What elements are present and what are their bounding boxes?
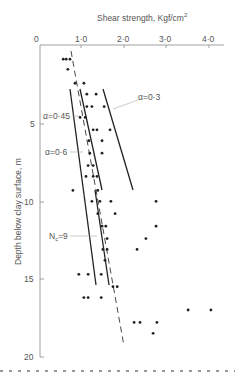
data-point (85, 105, 88, 108)
x-tick-4: 4·0 (202, 34, 215, 44)
data-point (87, 296, 90, 299)
label-alpha-045: α=0·45 (43, 111, 70, 121)
data-point (65, 58, 68, 61)
data-point (152, 332, 155, 335)
line-alpha-045 (70, 89, 96, 285)
data-point (101, 152, 104, 155)
data-point (77, 273, 80, 276)
label-alpha-03: α=0·3 (138, 92, 160, 102)
x-tick-3: 3·0 (159, 34, 172, 44)
y-tick-20: 20 (24, 352, 34, 362)
data-point (187, 309, 190, 312)
data-point (104, 225, 107, 228)
data-point (62, 58, 65, 61)
data-point (66, 68, 69, 71)
dashed-trend-line (71, 51, 124, 346)
data-point (133, 321, 136, 324)
data-point (139, 321, 142, 324)
y-tick-5: 5 (30, 119, 35, 129)
cropped-caption-line (0, 366, 235, 373)
data-point (112, 285, 115, 288)
data-point (145, 237, 148, 240)
data-point (155, 200, 158, 203)
data-point (101, 225, 104, 228)
data-point (116, 285, 119, 288)
line-alpha-03 (103, 89, 133, 190)
data-point (103, 105, 106, 108)
data-point (92, 128, 95, 131)
y-tick-15: 15 (24, 274, 34, 284)
data-point (95, 93, 98, 96)
data-point (96, 212, 99, 215)
data-point (114, 212, 117, 215)
x-tick-1: 1·0 (75, 34, 88, 44)
data-point (96, 175, 99, 178)
data-point (87, 164, 90, 167)
data-point (85, 175, 88, 178)
data-point (155, 225, 158, 228)
data-point (88, 139, 91, 142)
data-point (85, 93, 88, 96)
label-alpha-06: α=0·6 (45, 147, 67, 157)
data-point (106, 248, 109, 251)
data-point (92, 175, 95, 178)
x-tick-2: 2·0 (117, 34, 130, 44)
data-point (136, 248, 139, 251)
x-axis-title: Shear strength, Kgf/cm2 (97, 12, 188, 23)
data-point (72, 189, 75, 192)
data-point (87, 273, 90, 276)
data-point (109, 128, 112, 131)
data-point (96, 189, 99, 192)
data-point (88, 152, 91, 155)
data-point (99, 200, 102, 203)
y-tick-10: 10 (24, 197, 34, 207)
data-point (100, 273, 103, 276)
data-point (106, 237, 109, 240)
data-point (82, 82, 85, 85)
chart: Shear strength, Kgf/cm2 0 1·0 2·0 3·0 4·… (0, 0, 235, 373)
data-point (82, 296, 85, 299)
data-point (155, 321, 158, 324)
data-point (74, 82, 77, 85)
data-point (104, 259, 107, 262)
data-point (210, 309, 213, 312)
x-axis (40, 45, 224, 48)
data-point (101, 139, 104, 142)
data-point (101, 248, 104, 251)
data-point (69, 58, 72, 61)
data-point (96, 128, 99, 131)
data-point (84, 116, 87, 119)
data-point (91, 200, 94, 203)
label-nc-9: Nc=9 (49, 231, 68, 242)
data-point (91, 105, 94, 108)
line-alpha-06 (80, 89, 102, 190)
data-point (92, 164, 95, 167)
data-point (109, 200, 112, 203)
y-axis-title: Depth below clay surface, m (13, 158, 23, 265)
y-axis (40, 45, 44, 357)
data-point (79, 116, 82, 119)
data-point (100, 296, 103, 299)
x-tick-0: 0 (34, 34, 39, 44)
